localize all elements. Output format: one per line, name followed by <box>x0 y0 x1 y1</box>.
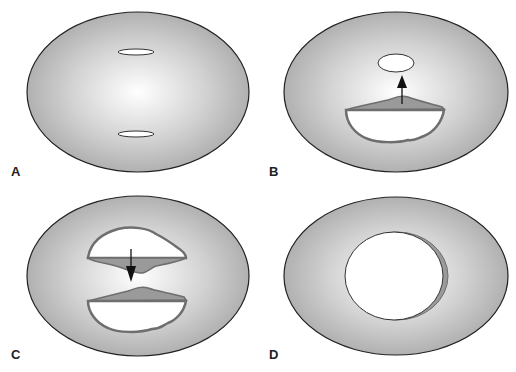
panel-d: D <box>258 186 516 372</box>
upper-slit <box>118 49 154 55</box>
panel-label-c: C <box>11 347 20 362</box>
oval-body <box>27 12 249 172</box>
oval-body <box>284 12 508 172</box>
lower-slit <box>118 131 154 137</box>
central-opening <box>345 232 443 320</box>
upper-opening <box>378 54 414 72</box>
panel-c: C <box>0 186 258 372</box>
panel-label-b: B <box>269 164 278 179</box>
panel-b-drawing <box>258 0 516 186</box>
panel-c-drawing <box>0 186 258 372</box>
panel-d-drawing <box>258 186 516 372</box>
panel-label-d: D <box>269 347 278 362</box>
panel-a-drawing <box>0 0 258 186</box>
panel-label-a: A <box>11 164 20 179</box>
panel-a: A <box>0 0 258 186</box>
panel-b: B <box>258 0 516 186</box>
